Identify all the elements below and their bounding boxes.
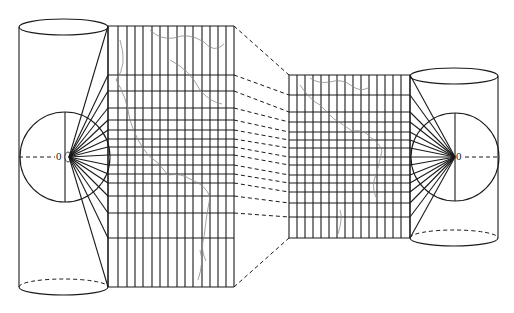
diagram-canvas — [0, 0, 514, 313]
left-cylinder-bottom-front — [19, 287, 108, 295]
connector-dashed — [234, 26, 289, 75]
left-americas-coastline — [116, 40, 210, 280]
left-north-coastline — [150, 30, 224, 104]
right-projection-ray — [410, 122, 455, 157]
connector-dashed — [234, 91, 289, 112]
connector-dashed — [234, 213, 289, 217]
right-cylinder-bottom-front — [410, 238, 498, 246]
left-cylinder-bottom-back — [19, 279, 108, 287]
right-origin-label: 0 — [456, 151, 462, 162]
left-projection-ray — [69, 91, 108, 157]
connector-dashed — [234, 130, 289, 140]
right-projection-ray — [410, 148, 455, 157]
projection-diagram: 0 0 — [0, 0, 514, 313]
connector-dashed — [234, 139, 289, 148]
left-cylinder-top — [19, 19, 108, 35]
right-cylinder-top — [410, 68, 498, 84]
connector-dashed — [234, 238, 289, 287]
connector-dashed — [234, 75, 289, 95]
right-cylinder-bottom-back — [410, 230, 498, 238]
connector-dashed — [234, 174, 289, 183]
connector-dashed — [234, 196, 289, 203]
connector-dashed — [234, 165, 289, 175]
connector-dashed — [234, 147, 289, 157]
left-projection-ray — [69, 26, 108, 157]
right-projection-ray — [410, 157, 455, 238]
right-projection-ray — [410, 95, 455, 157]
connector-dashed — [234, 120, 289, 132]
connector-dashed — [234, 108, 289, 122]
connector-dashed — [234, 155, 289, 165]
connector-dashed — [234, 183, 289, 192]
left-origin-label: 0 — [56, 151, 62, 162]
right-americas-coastline — [300, 85, 382, 234]
left-projection-ray — [69, 157, 108, 238]
right-north-coastline — [310, 78, 368, 90]
